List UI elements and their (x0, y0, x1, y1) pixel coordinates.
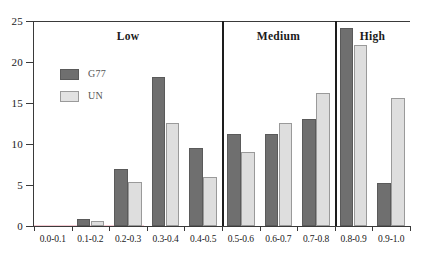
bar-un-0.5-0.6 (241, 152, 255, 226)
grouped-bar-chart: 0510152025 0.0-0.10.1-0.20.2-0.30.3-0.40… (0, 0, 421, 261)
x-axis-tick (410, 226, 411, 231)
x-axis-tick (297, 226, 298, 231)
bar-g77-0.8-0.9 (340, 28, 354, 226)
y-axis-label: 5 (0, 180, 23, 191)
bar-un-0.4-0.5 (203, 177, 217, 226)
bars-layer (34, 21, 410, 226)
bar-un-0.6-0.7 (279, 123, 293, 226)
y-axis-tick (26, 144, 33, 145)
bar-un-0.7-0.8 (316, 93, 330, 226)
y-axis-label: 10 (0, 139, 23, 150)
x-axis-tick (222, 226, 223, 231)
bar-g77-0.7-0.8 (302, 119, 316, 226)
bar-g77-0.6-0.7 (265, 134, 279, 226)
x-axis-tick (72, 226, 73, 231)
y-axis-tick (26, 62, 33, 63)
bar-g77-0.5-0.6 (227, 134, 241, 226)
x-axis-tick (147, 226, 148, 231)
y-axis-label: 15 (0, 98, 23, 109)
bar-un-0.3-0.4 (166, 123, 180, 226)
bar-un-0.1-0.2 (91, 221, 105, 226)
y-axis-tick (26, 21, 33, 22)
bar-un-0.8-0.9 (354, 45, 368, 226)
bar-g77-0.2-0.3 (114, 169, 128, 226)
x-axis-label: 0.9-1.0 (368, 234, 414, 245)
bar-un-0.2-0.3 (128, 182, 142, 226)
x-axis-tick (335, 226, 336, 231)
x-axis-tick (109, 226, 110, 231)
bar-g77-0.3-0.4 (152, 77, 166, 226)
y-axis-label: 20 (0, 57, 23, 68)
legend-swatch-g77 (60, 69, 79, 80)
bar-g77-0.1-0.2 (77, 219, 91, 226)
bar-g77-0.9-1.0 (377, 183, 391, 226)
x-axis-tick (34, 226, 35, 231)
x-axis-tick (184, 226, 185, 231)
y-axis-tick (26, 103, 33, 104)
bar-g77-0.4-0.5 (189, 148, 203, 226)
y-axis-label: 0 (0, 221, 23, 232)
x-axis-tick (260, 226, 261, 231)
x-axis-tick (372, 226, 373, 231)
legend-label-un: UN (88, 89, 103, 103)
legend-label-g77: G77 (88, 67, 106, 81)
legend-swatch-un (60, 91, 79, 102)
y-axis-label: 25 (0, 16, 23, 27)
y-axis-tick (26, 185, 33, 186)
y-axis-tick (26, 226, 33, 227)
bar-un-0.9-1.0 (391, 98, 405, 226)
